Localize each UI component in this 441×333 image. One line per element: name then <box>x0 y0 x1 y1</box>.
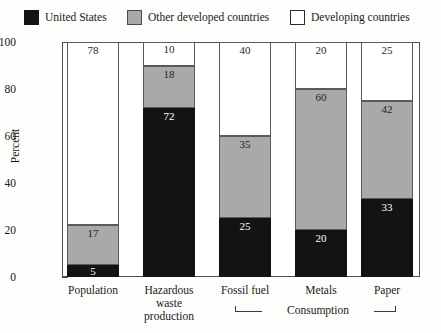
segment-value-metals-other-developed: 60 <box>296 91 346 104</box>
y-tick-label-40: 40 <box>0 177 16 189</box>
segment-value-population-developing: 78 <box>68 44 118 57</box>
y-tick-label-60: 60 <box>0 130 16 142</box>
bar-hazardous-waste-production[interactable]: 10 18 72 <box>143 42 195 277</box>
segment-value-paper-developing: 25 <box>362 44 412 57</box>
segment-paper-developing: 25 <box>361 42 413 101</box>
segment-population-other-developed: 17 <box>67 225 119 265</box>
segment-hazardous-united-states: 72 <box>143 108 195 277</box>
gray-square-icon <box>127 10 142 25</box>
legend-item-other-developed-countries: Other developed countries <box>127 10 269 25</box>
segment-paper-other-developed: 42 <box>361 101 413 200</box>
segment-fossil-fuel-other-developed: 35 <box>219 136 271 218</box>
segment-value-paper-other-developed: 42 <box>362 103 412 116</box>
bars-layer: 78 17 5 10 18 72 40 <box>62 42 420 277</box>
segment-metals-united-states: 20 <box>295 230 347 277</box>
segment-fossil-fuel-united-states: 25 <box>219 218 271 277</box>
bracket-tick-right <box>395 306 396 312</box>
segment-hazardous-other-developed: 18 <box>143 66 195 108</box>
segment-paper-united-states: 33 <box>361 199 413 277</box>
segment-value-fossil-fuel-united-states: 25 <box>220 220 270 233</box>
consumption-bracket: Consumption <box>0 300 441 320</box>
segment-metals-other-developed: 60 <box>295 89 347 230</box>
y-tick-label-20: 20 <box>0 224 16 236</box>
legend-label-other-developed-countries: Other developed countries <box>148 11 269 24</box>
segment-value-metals-united-states: 20 <box>296 232 346 245</box>
white-square-icon <box>290 10 305 25</box>
legend-label-developing-countries: Developing countries <box>311 11 410 24</box>
bar-fossil-fuel[interactable]: 40 35 25 <box>219 42 271 277</box>
legend-item-developing-countries: Developing countries <box>290 10 410 25</box>
segment-value-hazardous-developing: 10 <box>144 43 194 56</box>
segment-population-united-states: 5 <box>67 265 119 277</box>
segment-hazardous-developing: 10 <box>143 42 195 66</box>
segment-value-metals-developing: 20 <box>296 44 346 57</box>
segment-fossil-fuel-developing: 40 <box>219 42 271 136</box>
bar-paper[interactable]: 25 42 33 <box>361 42 413 277</box>
stacked-bar-chart-figure: United States Other developed countries … <box>0 0 441 333</box>
segment-population-developing: 78 <box>67 42 119 225</box>
segment-metals-developing: 20 <box>295 42 347 89</box>
y-tick-label-100: 100 <box>0 36 16 48</box>
segment-value-paper-united-states: 33 <box>362 201 412 214</box>
bar-metals[interactable]: 20 60 20 <box>295 42 347 277</box>
segment-value-hazardous-united-states: 72 <box>144 110 194 123</box>
y-tick-label-80: 80 <box>0 83 16 95</box>
segment-value-fossil-fuel-developing: 40 <box>220 44 270 57</box>
segment-value-population-other-developed: 17 <box>68 227 118 240</box>
y-axis-title: Percent <box>9 111 21 181</box>
bar-population[interactable]: 78 17 5 <box>67 42 119 277</box>
x-category-line-1-paper: Paper <box>335 284 439 297</box>
bracket-label: Consumption <box>262 304 374 317</box>
chart-legend: United States Other developed countries … <box>0 8 441 34</box>
segment-value-hazardous-other-developed: 18 <box>144 68 194 81</box>
x-category-label-paper: Paper <box>335 284 439 297</box>
segment-value-fossil-fuel-other-developed: 35 <box>220 138 270 151</box>
